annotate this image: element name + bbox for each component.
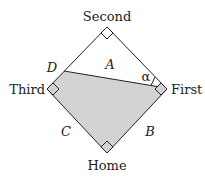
label-home: Home <box>87 158 126 173</box>
label-region-c: C <box>61 124 71 139</box>
label-region-b: B <box>144 124 155 139</box>
label-angle-alpha: α <box>142 69 151 84</box>
label-third: Third <box>9 82 45 97</box>
label-region-a: A <box>104 57 114 72</box>
label-point-d: D <box>46 60 58 75</box>
right-angle-marker-second <box>101 27 113 39</box>
baseball-diamond-diagram: Second First Home Third D A B C α <box>0 0 205 178</box>
label-second: Second <box>83 9 131 24</box>
label-first: First <box>171 82 203 97</box>
angle-alpha-arc <box>151 77 155 86</box>
